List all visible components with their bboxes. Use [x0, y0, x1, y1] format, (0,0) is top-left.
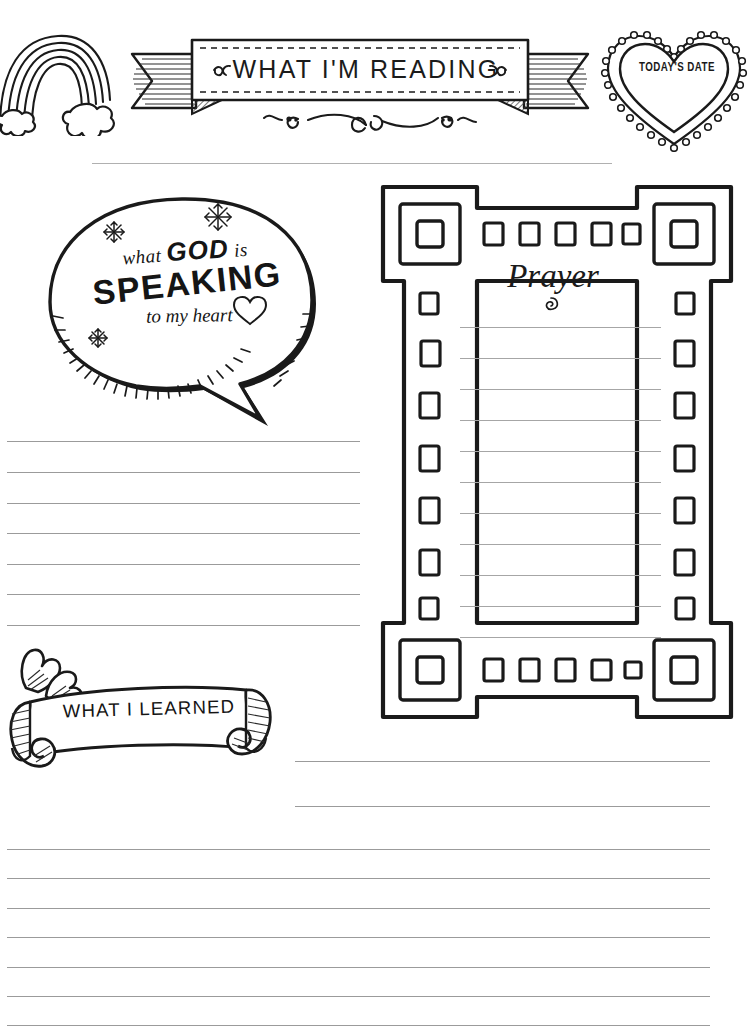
reading-notes-line[interactable]	[7, 503, 360, 504]
prayer-line[interactable]	[460, 575, 661, 576]
banner-title: WHAT I'M READING	[196, 55, 536, 84]
learned-line[interactable]	[7, 967, 710, 968]
journal-page: WHAT I'M READING	[0, 0, 756, 1032]
rainbow-with-clouds-icon	[0, 24, 124, 136]
prayer-line[interactable]	[460, 327, 661, 328]
reading-notes-line[interactable]	[7, 472, 360, 473]
reading-notes-line[interactable]	[7, 441, 360, 442]
prayer-line[interactable]	[460, 358, 661, 359]
learned-line[interactable]	[7, 908, 710, 909]
date-write-line[interactable]	[92, 163, 612, 164]
learned-line[interactable]	[7, 1025, 710, 1026]
todays-date-label: TODAY'S DATE	[630, 60, 724, 74]
reading-notes-line[interactable]	[7, 564, 360, 565]
learned-line[interactable]	[7, 937, 710, 938]
reading-notes-line[interactable]	[7, 594, 360, 595]
filigree-flourish-icon	[258, 108, 482, 138]
learned-line[interactable]	[7, 996, 710, 997]
prayer-title-swirl-icon	[538, 294, 564, 314]
learned-line[interactable]	[7, 878, 710, 879]
speech-bubble-text: what GOD is SPEAKING to my heart	[69, 230, 305, 333]
prayer-line[interactable]	[460, 482, 661, 483]
learned-line[interactable]	[7, 849, 710, 850]
learned-short-line[interactable]	[295, 761, 710, 762]
prayer-line[interactable]	[460, 637, 661, 638]
learned-short-line[interactable]	[295, 806, 710, 807]
reading-notes-line[interactable]	[7, 533, 360, 534]
reading-notes-line[interactable]	[7, 625, 360, 626]
prayer-line[interactable]	[460, 451, 661, 452]
scalloped-heart-icon	[600, 24, 748, 152]
prayer-line[interactable]	[460, 544, 661, 545]
bubble-line-3: to my heart	[74, 304, 304, 327]
prayer-line[interactable]	[460, 606, 661, 607]
prayer-line[interactable]	[460, 420, 661, 421]
prayer-line[interactable]	[460, 389, 661, 390]
prayer-line[interactable]	[460, 513, 661, 514]
prayer-title: Prayer	[478, 258, 628, 295]
